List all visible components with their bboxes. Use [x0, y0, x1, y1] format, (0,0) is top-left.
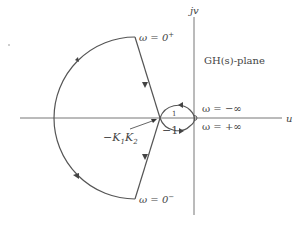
omega-pos-inf-label: ω = +∞: [202, 122, 242, 132]
arrow-icon: [142, 82, 148, 88]
u-axis-label: u: [286, 114, 292, 124]
arrow-icon: [178, 102, 183, 108]
tick-label: 1: [172, 111, 176, 118]
critical-point-label: −1: [162, 125, 178, 136]
dot: [8, 44, 9, 45]
crossing-point-label: −K1K2: [103, 132, 138, 146]
lower-segment: [135, 118, 160, 199]
pointer-line: [130, 120, 155, 129]
upper-segment: [135, 37, 160, 118]
omega-neg-inf-label: ω = −∞: [202, 104, 242, 114]
jv-axis-label: jv: [190, 6, 199, 16]
omega-zero-plus-label: ω = 0+: [139, 32, 174, 43]
omega-zero-minus-label: ω = 0−: [139, 194, 174, 205]
plane-label: GH(s)-plane: [204, 56, 265, 66]
arrow-icon: [179, 128, 184, 134]
